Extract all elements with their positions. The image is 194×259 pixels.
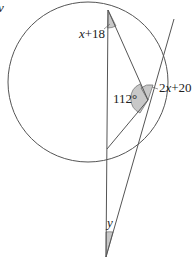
label-apex-angle: y bbox=[105, 215, 113, 230]
label-top-angle: x+18 bbox=[78, 26, 105, 41]
label-tangent-angle: 2x+20 bbox=[159, 80, 192, 95]
label-interior-angle: 112° bbox=[113, 91, 137, 106]
geometry-diagram: v x+18 112° 2x+20 y bbox=[0, 0, 194, 259]
corner-glyph: v bbox=[0, 0, 4, 15]
